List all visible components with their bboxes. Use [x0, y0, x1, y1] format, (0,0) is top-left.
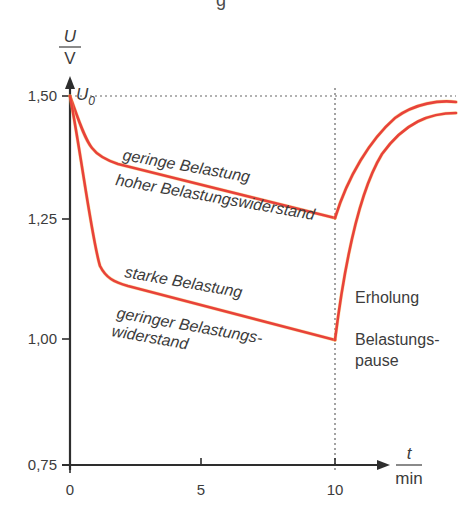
y-tick-label: 1,00 — [28, 330, 57, 347]
x-tick-label: 5 — [197, 481, 205, 498]
x-tick-label: 10 — [327, 481, 344, 498]
x-axis-symbol: t — [407, 444, 413, 463]
y-tick-label: 1,50 — [28, 87, 57, 104]
label-rest-1: Belastungs- — [355, 331, 440, 348]
y-axis-arrow-icon — [65, 76, 75, 89]
x-axis-unit: min — [395, 469, 422, 488]
u0-label-sub: 0 — [88, 94, 95, 108]
y-axis: 1,50 1,25 1,00 0,75 U V — [28, 27, 81, 473]
x-axis-arrow-icon — [377, 460, 390, 470]
x-axis: 0 5 10 t min — [62, 444, 423, 498]
label-recovery: Erholung — [355, 289, 419, 306]
cropped-title-fragment: g — [216, 0, 226, 10]
y-tick-label: 0,75 — [28, 456, 57, 473]
u0-label-main: U — [76, 85, 89, 104]
u0-label: U0 — [76, 85, 95, 108]
x-tick-label: 0 — [66, 481, 74, 498]
y-tick-label: 1,25 — [28, 210, 57, 227]
y-axis-unit: V — [64, 49, 76, 68]
y-axis-symbol: U — [64, 27, 77, 46]
voltage-discharge-chart: g 1,50 1,25 1,00 0,75 U V 0 5 10 t min U… — [0, 0, 475, 525]
label-rest-2: pause — [355, 352, 399, 369]
label-heavy-load: starke Belastung — [123, 263, 243, 300]
